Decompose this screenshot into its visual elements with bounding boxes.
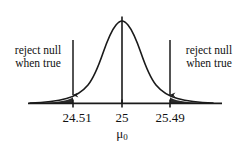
left-annotation-line-1: reject null [10, 44, 66, 57]
right-annotation-line-1: reject null [180, 44, 238, 57]
x-axis-title: μ0 [98, 126, 146, 142]
left-rejection-annotation: reject null when true [10, 44, 66, 70]
left-annotation-line-2: when true [10, 57, 66, 70]
right-rejection-annotation: reject null when true [180, 44, 238, 70]
x-tick-label-lower-critical: 24.51 [49, 110, 105, 126]
x-axis-title-subscript: 0 [123, 132, 128, 142]
right-annotation-line-2: when true [180, 57, 238, 70]
normal-distribution-figure: reject null when true reject null when t… [0, 0, 242, 150]
x-tick-label-mean: 25 [98, 110, 146, 126]
x-tick-label-upper-critical: 25.49 [142, 110, 198, 126]
